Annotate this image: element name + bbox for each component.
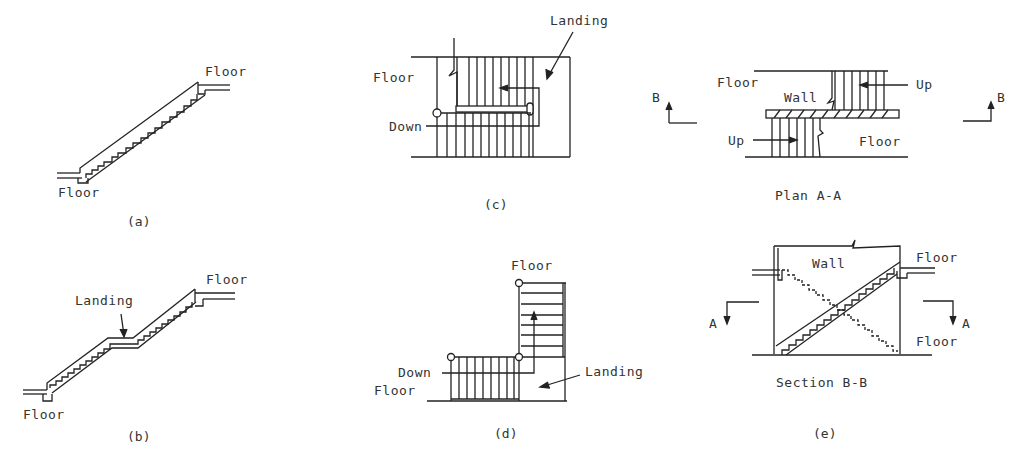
panel-d-top-floor-label: Floor (511, 259, 553, 272)
panel-a-drawing (57, 82, 230, 183)
panel-c-landing-label: Landing (550, 14, 608, 27)
panel-a-top-floor-label: Floor (205, 65, 247, 78)
panel-e-plan-up-top-label: Up (916, 78, 933, 91)
panel-e-section-floor-top-label: Floor (916, 251, 958, 264)
panel-e-plan-wall-label: Wall (784, 91, 817, 104)
panel-c-caption: (c) (484, 198, 507, 211)
panel-c-floor-label: Floor (373, 71, 415, 84)
panel-b-caption: (b) (127, 430, 150, 443)
panel-e-plan-marker-b-left: B (652, 91, 660, 104)
panel-d-drawing (427, 280, 580, 402)
panel-b-landing-label: Landing (75, 294, 133, 307)
panel-a-bottom-floor-label: Floor (58, 186, 100, 199)
panel-e-section-wall-label: Wall (812, 257, 845, 270)
stair-diagram-canvas (0, 0, 1021, 458)
panel-c-drawing (411, 32, 573, 157)
panel-e-plan-up-bottom-label: Up (728, 134, 745, 147)
panel-e-caption: (e) (813, 427, 836, 440)
panel-b-bottom-floor-label: Floor (23, 408, 65, 421)
panel-e-section-marker-a-right: A (962, 317, 970, 330)
panel-c-down-label: Down (389, 120, 422, 133)
panel-e-plan-title: Plan A-A (775, 189, 842, 202)
panel-a-caption: (a) (127, 215, 150, 228)
panel-e-section-floor-bottom-label: Floor (916, 335, 958, 348)
panel-d-bottom-floor-label: Floor (374, 384, 416, 397)
panel-e-section-marker-a-left: A (709, 317, 717, 330)
panel-e-plan-drawing (666, 71, 994, 157)
panel-b-top-floor-label: Floor (206, 273, 248, 286)
panel-e-section-title: Section B-B (776, 376, 868, 389)
panel-d-caption: (d) (494, 427, 517, 440)
panel-e-plan-floor-top-label: Floor (717, 76, 759, 89)
panel-e-plan-floor-bottom-label: Floor (859, 135, 901, 148)
panel-d-down-label: Down (398, 366, 431, 379)
panel-e-plan-marker-b-right: B (997, 91, 1005, 104)
panel-d-landing-label: Landing (585, 365, 643, 378)
